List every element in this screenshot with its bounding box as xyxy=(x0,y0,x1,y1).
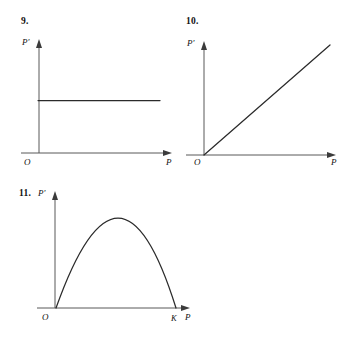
figure-9-y-axis-arrowhead xyxy=(36,39,42,48)
figure-10-x-axis-arrowhead xyxy=(327,152,336,158)
figure-9-x-axis-arrowhead xyxy=(163,150,172,156)
figure-10-plot xyxy=(179,0,358,180)
figure-11-data-curve xyxy=(56,218,176,308)
figure-11: 11. P' P O K xyxy=(0,170,210,339)
figure-11-y-axis-arrowhead xyxy=(52,191,58,200)
figure-10-data-curve xyxy=(204,45,330,155)
figure-9-plot xyxy=(0,0,179,180)
figure-9: 9. P' P O xyxy=(0,0,179,180)
figure-10-y-axis-arrowhead xyxy=(201,41,207,50)
figure-10: 10. P' P O xyxy=(179,0,358,180)
figure-11-x-axis-arrowhead xyxy=(181,305,190,311)
figure-11-plot xyxy=(0,170,210,339)
